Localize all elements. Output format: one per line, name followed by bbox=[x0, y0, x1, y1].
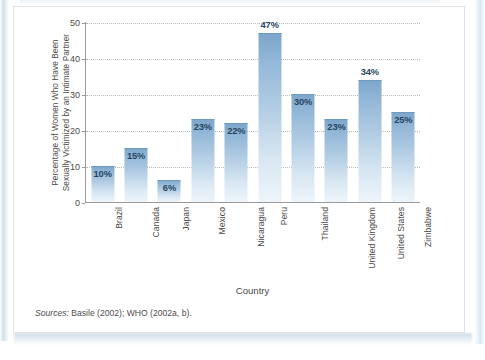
bar[interactable]: 47% bbox=[258, 33, 281, 202]
source-note: Sources: Basile (2002); WHO (2002a, b). bbox=[35, 308, 192, 318]
bar-top-edge bbox=[358, 80, 381, 81]
x-axis-line bbox=[85, 202, 420, 203]
source-note-label: Sources: bbox=[35, 308, 69, 318]
bar-top-edge bbox=[191, 119, 214, 120]
x-tick-label: Zimbabwe bbox=[423, 207, 433, 247]
bar-value-label: 15% bbox=[127, 151, 145, 161]
bar-group[interactable]: 34%United States bbox=[353, 22, 386, 202]
bar[interactable]: 6% bbox=[158, 180, 181, 202]
bar[interactable]: 34% bbox=[358, 80, 381, 202]
bar-group[interactable]: 47%Peru bbox=[253, 22, 286, 202]
bar-top-edge bbox=[392, 112, 415, 113]
bar-chart-figure: Percentage of Women Who Have Been Sexual… bbox=[13, 6, 465, 333]
bar[interactable]: 30% bbox=[292, 94, 315, 202]
y-tick-mark bbox=[82, 59, 85, 60]
x-tick-label: Peru bbox=[279, 207, 289, 225]
bar-group[interactable]: 6%Japan bbox=[153, 22, 186, 202]
bar-top-edge bbox=[225, 123, 248, 124]
bar-top-edge bbox=[158, 180, 181, 181]
page-bottom-shadow bbox=[14, 333, 472, 345]
bar-group[interactable]: 10%Brazil bbox=[86, 22, 119, 202]
bar[interactable]: 23% bbox=[325, 119, 348, 202]
bar-top-edge bbox=[125, 148, 148, 149]
bar-value-label: 22% bbox=[227, 126, 245, 136]
bar-top-edge bbox=[292, 94, 315, 95]
y-tick-label: 0 bbox=[75, 198, 80, 208]
bar-value-label: 23% bbox=[327, 122, 345, 132]
scanned-page: Percentage of Women Who Have Been Sexual… bbox=[0, 0, 485, 360]
y-axis-title-line-1: Percentage of Women Who Have Been bbox=[51, 18, 62, 208]
bar[interactable]: 10% bbox=[91, 166, 114, 202]
y-tick-label: 40 bbox=[70, 54, 80, 64]
bar-group[interactable]: 30%Thailand bbox=[286, 22, 319, 202]
bar[interactable]: 25% bbox=[392, 112, 415, 202]
source-note-text: Basile (2002); WHO (2002a, b). bbox=[69, 308, 192, 318]
page-top-smudge bbox=[20, 0, 440, 5]
bar-value-label: 10% bbox=[94, 169, 112, 179]
y-tick-mark bbox=[82, 167, 85, 168]
y-axis-title: Percentage of Women Who Have Been Sexual… bbox=[51, 18, 72, 208]
y-tick-label: 20 bbox=[70, 126, 80, 136]
bar-value-label: 6% bbox=[163, 183, 176, 193]
bar[interactable]: 23% bbox=[191, 119, 214, 202]
bar-value-label: 47% bbox=[261, 20, 279, 30]
x-tick-label: Canada bbox=[151, 207, 161, 237]
bar-value-label: 25% bbox=[394, 115, 412, 125]
y-tick-label: 10 bbox=[70, 162, 80, 172]
x-tick-label: Mexico bbox=[217, 207, 227, 235]
x-tick-label: Nicaragua bbox=[256, 207, 266, 247]
bar[interactable]: 15% bbox=[125, 148, 148, 202]
bar-group[interactable]: 25%Zimbabwe bbox=[387, 22, 420, 202]
bar-top-edge bbox=[258, 33, 281, 34]
x-tick-label: United States bbox=[396, 207, 406, 259]
page-right-edge bbox=[474, 0, 485, 344]
y-tick-label: 30 bbox=[70, 90, 80, 100]
bar-top-edge bbox=[325, 119, 348, 120]
bar-group[interactable]: 22%Nicaragua bbox=[220, 22, 253, 202]
x-tick-label: Japan bbox=[181, 207, 191, 231]
y-tick-mark bbox=[82, 203, 85, 204]
bar[interactable]: 22% bbox=[225, 123, 248, 202]
y-tick-mark bbox=[82, 131, 85, 132]
y-axis-title-line-2: Sexually Victimized by an Intimate Partn… bbox=[61, 18, 72, 208]
y-tick-label: 50 bbox=[70, 18, 80, 28]
bar-value-label: 23% bbox=[194, 122, 212, 132]
x-tick-label: Brazil bbox=[114, 207, 124, 229]
x-tick-label: Thailand bbox=[320, 207, 330, 240]
plot-area: 01020304050 10%Brazil15%Canada6%Japan23%… bbox=[85, 22, 420, 203]
bar-series: 10%Brazil15%Canada6%Japan23%Mexico22%Nic… bbox=[86, 22, 420, 202]
y-tick-mark bbox=[82, 95, 85, 96]
x-axis-title: Country bbox=[85, 285, 420, 296]
x-tick-label: United Kingdom bbox=[367, 207, 377, 269]
y-tick-mark bbox=[82, 23, 85, 24]
page-left-edge bbox=[0, 0, 9, 341]
bar-group[interactable]: 15%Canada bbox=[119, 22, 152, 202]
bar-group[interactable]: 23%Mexico bbox=[186, 22, 219, 202]
bar-value-label: 30% bbox=[294, 97, 312, 107]
bar-top-edge bbox=[91, 166, 114, 167]
bar-value-label: 34% bbox=[361, 67, 379, 77]
bar-group[interactable]: 23%United Kingdom bbox=[320, 22, 353, 202]
